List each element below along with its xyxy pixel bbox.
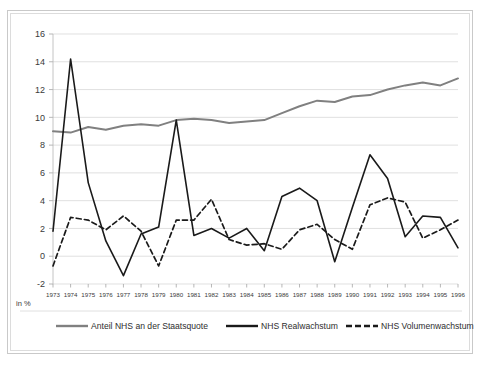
xtick-label: 1992 xyxy=(381,291,395,298)
xtick-label: 1977 xyxy=(117,291,131,298)
ytick-label: 2 xyxy=(40,224,45,234)
xtick-label: 1978 xyxy=(134,291,148,298)
xtick-label: 1979 xyxy=(152,291,166,298)
ytick-label: 14 xyxy=(35,57,45,67)
legend-label-0: Anteil NHS an der Staatsquote xyxy=(91,321,208,331)
ytick-label: 16 xyxy=(35,29,45,39)
legend-item-0[interactable]: Anteil NHS an der Staatsquote xyxy=(56,321,208,331)
xtick-label: 1993 xyxy=(398,291,412,298)
legend-item-1[interactable]: NHS Realwachstum xyxy=(226,321,338,331)
xtick-label: 1996 xyxy=(451,291,465,298)
ytick-label: 8 xyxy=(40,140,45,150)
xtick-label: 1994 xyxy=(416,291,430,298)
xtick-label: 1995 xyxy=(434,291,448,298)
xtick-label: 1987 xyxy=(293,291,307,298)
ytick-label: 12 xyxy=(35,85,45,95)
xtick-label: 1989 xyxy=(328,291,342,298)
xtick-label: 1976 xyxy=(99,291,113,298)
ytick-label: 4 xyxy=(40,196,45,206)
xtick-label: 1980 xyxy=(169,291,183,298)
xtick-label: 1985 xyxy=(257,291,271,298)
xtick-label: 1982 xyxy=(205,291,219,298)
xtick-label: 1983 xyxy=(222,291,236,298)
chart-canvas: 1614121086420-21973197419751976197719781… xyxy=(8,11,474,355)
xtick-label: 1973 xyxy=(46,291,60,298)
xtick-label: 1991 xyxy=(363,291,377,298)
series-line-1 xyxy=(53,59,458,276)
legend-label-1: NHS Realwachstum xyxy=(261,321,338,331)
legend-label-2: NHS Volumenwachstum xyxy=(381,321,474,331)
ytick-label: 6 xyxy=(40,168,45,178)
xtick-label: 1984 xyxy=(240,291,254,298)
xtick-label: 1974 xyxy=(64,291,78,298)
xtick-label: 1988 xyxy=(310,291,324,298)
ytick-label: -2 xyxy=(37,279,45,289)
chart-outer-frame: 1614121086420-21973197419751976197719781… xyxy=(7,10,473,354)
y-axis-unit-label: in % xyxy=(16,299,31,308)
ytick-label: 0 xyxy=(40,251,45,261)
xtick-label: 1990 xyxy=(345,291,359,298)
xtick-label: 1975 xyxy=(81,291,95,298)
series-line-0 xyxy=(53,78,458,132)
line-chart: 1614121086420-21973197419751976197719781… xyxy=(8,11,474,355)
xtick-label: 1981 xyxy=(187,291,201,298)
xtick-label: 1986 xyxy=(275,291,289,298)
legend-item-2[interactable]: NHS Volumenwachstum xyxy=(346,321,474,331)
ytick-label: 10 xyxy=(35,113,45,123)
